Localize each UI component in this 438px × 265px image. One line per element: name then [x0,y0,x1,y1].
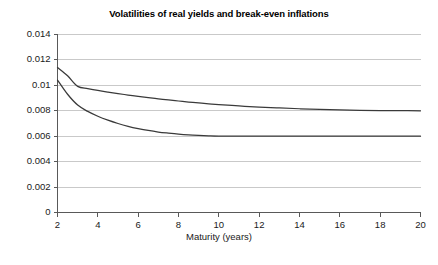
x-tick-label: 20 [401,219,438,230]
x-axis-title: Maturity (years) [0,231,438,242]
y-tick-label: 0.004 [0,155,51,166]
y-tick-label: 0.006 [0,130,51,141]
x-tick-label: 6 [118,219,158,230]
y-tick-label: 0 [0,206,51,217]
x-tick-label: 4 [78,219,118,230]
gridlines [58,35,421,213]
x-tick-label: 14 [280,219,320,230]
x-tick-label: 18 [360,219,400,230]
x-tick-label: 16 [320,219,360,230]
x-axis-ticks [58,213,421,217]
y-tick-label: 0.002 [0,181,51,192]
x-tick-label: 12 [239,219,279,230]
x-tick-label: 8 [159,219,199,230]
y-axis-ticks [54,35,58,213]
chart-figure: Volatilities of real yields and break-ev… [0,0,438,265]
x-tick-label: 10 [199,219,239,230]
data-series-group [58,68,421,137]
data-line-1 [58,68,421,111]
y-tick-label: 0.01 [0,79,51,90]
y-tick-label: 0.008 [0,104,51,115]
y-tick-label: 0.014 [0,28,51,39]
data-line-2 [58,80,421,136]
x-tick-label: 2 [38,219,78,230]
y-tick-label: 0.012 [0,53,51,64]
